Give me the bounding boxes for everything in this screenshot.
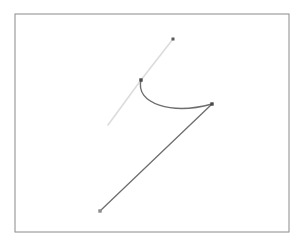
figure-canvas	[0, 0, 304, 246]
canvas-background	[0, 0, 304, 246]
figure-root	[0, 0, 304, 246]
marker-junction	[139, 78, 142, 81]
marker-bottom-left	[98, 209, 101, 212]
marker-top	[172, 38, 175, 41]
marker-right	[210, 102, 213, 105]
